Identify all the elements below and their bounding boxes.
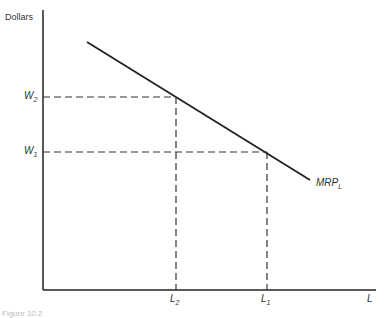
mrp-curve-label: MRPL <box>316 177 342 190</box>
y-axis-label: Dollars <box>5 12 33 22</box>
x-axis-label: L <box>367 293 373 304</box>
l1-sub: 1 <box>267 299 271 306</box>
l2-sub: 2 <box>176 299 180 306</box>
mrp-main: MRP <box>316 177 338 188</box>
l1-label: L1 <box>261 293 270 306</box>
w2-sub: 2 <box>33 96 37 103</box>
w1-label: W1 <box>24 145 37 158</box>
w1-sub: 1 <box>33 151 37 158</box>
mrp-sub: L <box>338 183 342 190</box>
figure-caption: Figure 10.2 <box>2 309 42 318</box>
l2-label: L2 <box>170 293 179 306</box>
mrp-curve <box>87 42 310 180</box>
w2-label: W2 <box>24 90 37 103</box>
